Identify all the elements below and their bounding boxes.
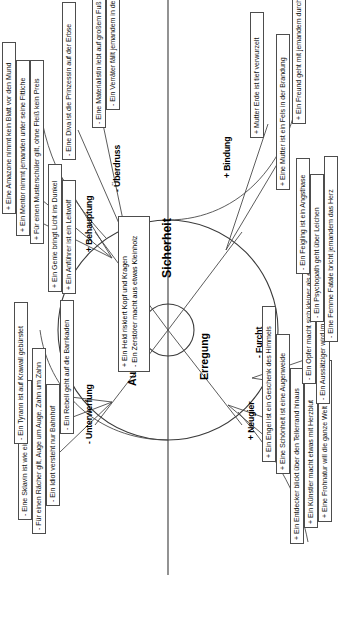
item-box: + Ein Freund geht mit jemandem durch dic…: [292, 0, 306, 124]
item-box: + Für einen Musterschüler gilt, ohne Fle…: [30, 60, 44, 244]
diagram-canvas: Erregung Autonomie Sicherheit + Ein Held…: [0, 0, 346, 630]
item-box: - Für einen Rächer gilt, Auge um Auge, Z…: [32, 348, 46, 534]
item-box: - Eine Materialistin lebt auf großem Fuß: [92, 0, 106, 128]
axis-label-sicherheit: Sicherheit: [160, 218, 174, 278]
item-box: + Eine Schönheit ist eine Augenweide: [276, 334, 290, 474]
item-box: - Ein Verräter fällt jemandem in den Rüc…: [106, 0, 120, 110]
item-box: - Ein Psychopath geht über Leichen: [310, 174, 324, 322]
item-box: + Ein Genie bringt Licht ins Dunkel: [48, 164, 62, 292]
item-box: + Ein Engel ist ein Geschenk des Himmels: [262, 306, 276, 462]
sector-label-neugier: + Neugier: [246, 401, 256, 440]
item-box: + Ein Entdecker blickt über den Tellerra…: [290, 368, 304, 544]
diagram-rotated-world: Erregung Autonomie Sicherheit + Ein Held…: [0, 0, 346, 630]
center-statement-negative: - Ein Zerstörer macht aus etwas Kleinhol…: [131, 221, 141, 367]
item-box: - Eine Diva ist die Prinzessin auf der E…: [62, 2, 76, 160]
item-box: + Mutter Erde ist tief verwurzelt: [250, 12, 264, 138]
sector-label-behauptung: + Behauptung: [84, 196, 94, 252]
item-box: + Ein Anführer ist ein Leitwolf: [62, 180, 76, 294]
sector-label-unterwerfung: - Unterwerfung: [84, 384, 94, 444]
center-statement-box: + Ein Held riskiert Kopf und Kragen - Ei…: [118, 216, 150, 372]
item-box: - Ein Tyrann ist auf Krawall gebürstet: [14, 302, 28, 444]
item-box: + Ein Mentor nimmt jemanden unter seine …: [16, 60, 30, 236]
axis-label-erregung: Erregung: [198, 333, 210, 380]
sector-label-bindung: + Bindung: [222, 137, 232, 178]
item-box: - Eine Femme Fatale bricht jemandem das …: [324, 156, 338, 342]
sector-label-ueberdruss: - Überdruss: [112, 145, 122, 192]
item-box: - Ein Feigling ist ein Angsthase: [296, 158, 310, 274]
item-box: + Eine Amazone nimmt kein Blatt vor den …: [2, 42, 16, 214]
item-box: + Eine Mutter ist ein Fels in der Brandu…: [276, 34, 290, 190]
center-statement-positive: + Ein Held riskiert Kopf und Kragen: [121, 221, 131, 367]
item-box: - Ein Idiot versteht nur Bahnhof: [46, 384, 60, 506]
item-box: - Ein Rebell geht auf die Barrikaden: [60, 300, 74, 434]
